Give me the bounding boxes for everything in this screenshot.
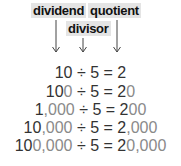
quotient: 2 xyxy=(117,83,126,100)
equals-sign: = xyxy=(104,119,113,136)
divide-operator: ÷ xyxy=(77,64,86,81)
divide-operator: ÷ xyxy=(77,119,86,136)
equals-sign: = xyxy=(104,137,113,154)
divide-operator: ÷ xyxy=(79,101,88,118)
equals-sign: = xyxy=(106,101,115,118)
divisor: 5 xyxy=(90,119,99,136)
quotient-added-zeros: 0,000 xyxy=(126,137,166,154)
divide-operator: ÷ xyxy=(77,137,86,154)
dividend-added-zeros: 0 xyxy=(64,83,73,100)
dividend-added-zeros: ,000 xyxy=(44,101,75,118)
dividend: 10 xyxy=(55,64,73,81)
dividend: 10 xyxy=(46,83,64,100)
quotient-added-zeros: ,000 xyxy=(126,119,157,136)
equation-row: 10,000 ÷ 5 = 2,000 xyxy=(0,119,181,136)
divisor: 5 xyxy=(92,101,101,118)
quotient: 2 xyxy=(120,101,129,118)
dividend: 10 xyxy=(24,119,42,136)
equation-row: 10 ÷ 5 = 2 xyxy=(0,64,181,81)
dividend-added-zeros: ,000 xyxy=(41,119,72,136)
dividend-added-zeros: 0,000 xyxy=(32,137,72,154)
quotient-added-zeros: 0 xyxy=(126,83,135,100)
quotient: 2 xyxy=(117,119,126,136)
equation-row: 100,000 ÷ 5 = 20,000 xyxy=(0,137,181,154)
equals-sign: = xyxy=(104,83,113,100)
equals-sign: = xyxy=(104,64,113,81)
divisor: 5 xyxy=(90,64,99,81)
quotient: 2 xyxy=(117,64,126,81)
dividend: 1 xyxy=(35,101,44,118)
dividend: 10 xyxy=(15,137,33,154)
divisor: 5 xyxy=(90,83,99,100)
divide-operator: ÷ xyxy=(77,83,86,100)
quotient: 2 xyxy=(117,137,126,154)
equation-row: 1,000 ÷ 5 = 200 xyxy=(0,101,181,118)
divisor: 5 xyxy=(90,137,99,154)
quotient-added-zeros: 00 xyxy=(129,101,147,118)
equation-row: 100 ÷ 5 = 20 xyxy=(0,83,181,100)
arrow-down-icon xyxy=(0,0,181,60)
